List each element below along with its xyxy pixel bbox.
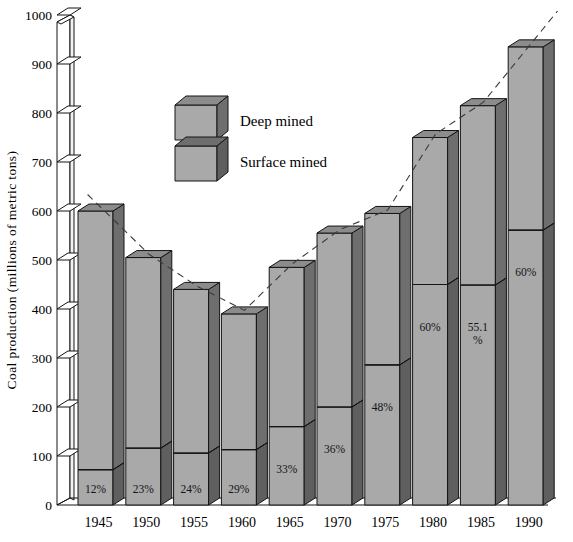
bar-side-deep: [400, 206, 411, 364]
bar-percentage-label: 60%: [420, 321, 442, 333]
bar-front-surface: [221, 450, 256, 505]
bar-side-deep: [161, 251, 172, 449]
bar-front-deep: [174, 289, 209, 453]
bar-front-deep: [269, 267, 304, 426]
bar-side-surface: [256, 443, 267, 505]
bar-percentage-label: 60%: [515, 266, 537, 278]
bar-percentage-label: 29%: [228, 483, 250, 495]
bar-percentage-label: 36%: [324, 443, 346, 455]
bar-side-deep: [448, 131, 459, 285]
x-tick-label: 1945: [85, 515, 113, 530]
chart-canvas: Coal production (millions of metric tons…: [0, 0, 573, 542]
bar-side-surface: [400, 358, 411, 505]
bar-group: [174, 282, 220, 505]
bar-percentage-label: 12%: [85, 483, 107, 495]
y-tick-label: 500: [32, 253, 53, 268]
bar-front-deep: [126, 258, 161, 449]
bar-side-deep: [209, 282, 220, 453]
bar-side-deep: [256, 307, 267, 450]
bar-group: [221, 307, 267, 505]
bar-front-surface: [174, 453, 209, 505]
x-tick-label: 1975: [371, 515, 399, 530]
x-tick-label: 1955: [180, 515, 208, 530]
x-tick-label: 1985: [467, 515, 495, 530]
bar-side-deep: [352, 226, 363, 407]
bar-side-surface: [495, 278, 506, 505]
x-axis-labels: 1945195019551960196519701975198019851990: [85, 515, 543, 530]
y-tick-label: 800: [32, 106, 53, 121]
y-tick-label: 300: [32, 351, 53, 366]
y-axis-title: Coal production (millions of metric tons…: [4, 151, 19, 390]
x-tick-label: 1950: [132, 515, 160, 530]
legend-label-deep-mined: Deep mined: [240, 113, 313, 129]
bar-percentage-label: 48%: [372, 401, 394, 413]
bar-front-deep: [508, 47, 543, 230]
y-tick-label: 700: [32, 155, 53, 170]
bar-side-surface: [161, 441, 172, 505]
x-tick-label: 1980: [419, 515, 447, 530]
bar-front-deep: [365, 213, 400, 364]
y-tick-label: 900: [32, 57, 53, 72]
bar-front-deep: [317, 233, 352, 407]
chart-legend: Deep mined Surface mined: [175, 96, 328, 181]
bar-front-surface: [413, 285, 448, 506]
y-tick-label: 0: [45, 498, 52, 513]
bar-side-deep: [495, 99, 506, 285]
bar-front-surface: [365, 365, 400, 505]
bar-front-deep: [78, 211, 113, 470]
bar-side-deep: [113, 204, 124, 470]
bar-group: [365, 206, 411, 505]
bar-percentage-label: 33%: [276, 463, 298, 475]
bar-group: [413, 131, 459, 506]
bar-side-deep: [543, 40, 554, 230]
bar-front-surface: [126, 448, 161, 505]
legend-label-surface-mined: Surface mined: [240, 154, 328, 170]
legend-swatch-deep-mined: [175, 96, 228, 140]
bar-group: [317, 226, 363, 505]
bar-group: [460, 99, 506, 505]
bar-side-surface: [543, 223, 554, 505]
bar-percentage-label: 24%: [181, 483, 203, 495]
bar-front-deep: [460, 106, 495, 285]
coal-production-chart: Coal production (millions of metric tons…: [0, 0, 573, 542]
x-tick-label: 1970: [324, 515, 352, 530]
x-tick-label: 1965: [276, 515, 304, 530]
y-tick-label: 200: [32, 400, 53, 415]
x-tick-label: 1990: [515, 515, 543, 530]
bars-layer: [78, 40, 554, 505]
bar-percentage-label: 23%: [133, 483, 155, 495]
y-tick-label: 1000: [25, 8, 52, 23]
bar-side-surface: [448, 278, 459, 506]
bar-front-surface: [460, 285, 495, 505]
bar-side-surface: [304, 420, 315, 505]
y-tick-label: 600: [32, 204, 53, 219]
y-tick-label: 100: [32, 449, 53, 464]
bar-group: [126, 251, 172, 505]
bar-front-deep: [413, 138, 448, 285]
legend-swatch-surface-mined: [175, 137, 228, 181]
bar-front-deep: [221, 314, 256, 450]
bar-group: [78, 204, 124, 505]
y-tick-label: 400: [32, 302, 53, 317]
bar-side-surface: [209, 446, 220, 505]
bar-side-deep: [304, 260, 315, 426]
x-tick-label: 1960: [228, 515, 256, 530]
bar-front-surface: [317, 407, 352, 505]
bar-side-surface: [352, 400, 363, 505]
